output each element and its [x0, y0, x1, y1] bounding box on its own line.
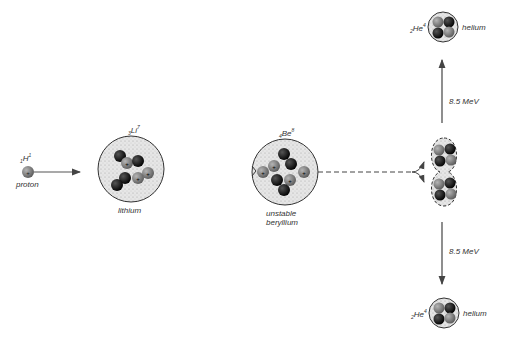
- beryllium-nucleus: + + + +: [252, 139, 318, 205]
- svg-text:+: +: [26, 170, 30, 176]
- svg-text:+: +: [288, 178, 292, 184]
- helium-top-symbol: 2He4: [410, 22, 426, 34]
- lithium-nucleus: + + +: [98, 136, 164, 202]
- lithium-symbol: 3Li7: [128, 124, 140, 136]
- beryllium-label-2: beryllium: [266, 218, 298, 227]
- svg-text:+: +: [261, 170, 265, 176]
- helium-nucleus-top: [428, 12, 458, 42]
- svg-text:+: +: [272, 164, 276, 170]
- reaction-diagram: + + + + + + + +: [0, 0, 506, 341]
- beryllium-symbol: 4Be8: [279, 127, 294, 139]
- beryllium-label-1: unstable: [266, 209, 296, 218]
- helium-top-label: helium: [462, 23, 486, 32]
- svg-text:+: +: [302, 170, 306, 176]
- energy-bottom-label: 8.5 MeV: [449, 247, 479, 256]
- lithium-label: lithium: [118, 206, 141, 215]
- helium-bottom-label: helium: [463, 309, 487, 318]
- svg-text:+: +: [125, 161, 129, 167]
- helium-nucleus-bottom: [429, 298, 459, 328]
- helium-bottom-symbol: 2He4: [411, 308, 427, 320]
- splitting-nucleus: [431, 138, 456, 206]
- proton-label: proton: [16, 180, 39, 189]
- energy-top-label: 8.5 MeV: [449, 97, 479, 106]
- svg-text:+: +: [136, 176, 140, 182]
- proton-symbol: 1H1: [20, 152, 31, 164]
- svg-text:+: +: [146, 171, 150, 177]
- proton-particle: +: [22, 166, 34, 178]
